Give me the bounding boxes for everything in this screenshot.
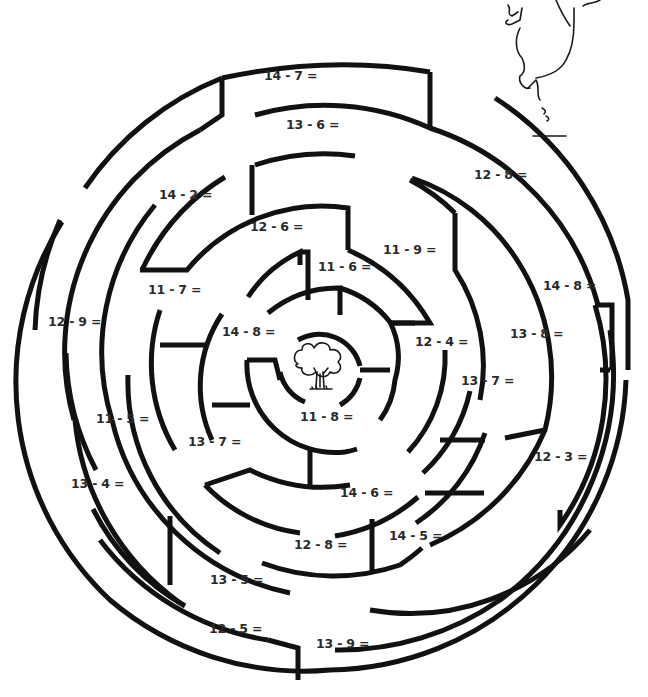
maze-walls <box>16 65 628 680</box>
problem-text: 12 - 3 = <box>534 449 587 464</box>
problem-text: 12 - 6 = <box>250 219 303 234</box>
problem-12-9[interactable]: 12 - 9 = <box>48 314 121 329</box>
problem-11-9[interactable]: 11 - 9 = <box>383 242 456 257</box>
problem-12-6[interactable]: 12 - 6 = <box>250 219 323 234</box>
problem-14-6[interactable]: 14 - 6 = <box>340 485 413 500</box>
problem-12-5[interactable]: 12 - 5 = <box>209 621 282 636</box>
problem-text: 11 - 9 = <box>383 242 436 257</box>
problem-13-6[interactable]: 13 - 6 = <box>286 117 359 132</box>
problem-12-4[interactable]: 12 - 4 = <box>415 334 488 349</box>
problem-text: 14 - 2 = <box>159 187 212 202</box>
problem-text: 14 - 8 = <box>543 278 596 293</box>
problem-13-7-left[interactable]: 13 - 7 = <box>188 434 261 449</box>
problem-text: 13 - 8 = <box>510 326 563 341</box>
problem-text: 12 - 8 = <box>294 537 347 552</box>
problem-14-7[interactable]: 14 - 7 = <box>264 68 337 83</box>
problem-text: 11 - 7 = <box>148 282 201 297</box>
problem-13-4[interactable]: 13 - 4 = <box>71 476 144 491</box>
problem-11-5[interactable]: 11 - 5 = <box>96 411 169 426</box>
problem-text: 14 - 7 = <box>264 68 317 83</box>
problem-text: 11 - 5 = <box>96 411 149 426</box>
problem-12-8-top[interactable]: 12 - 8 = <box>474 167 547 182</box>
problem-text: 13 - 7 = <box>188 434 241 449</box>
problem-13-8[interactable]: 13 - 8 = <box>510 326 583 341</box>
problem-11-6[interactable]: 11 - 6 = <box>318 259 391 274</box>
problem-text: 14 - 6 = <box>340 485 393 500</box>
problem-11-7[interactable]: 11 - 7 = <box>148 282 221 297</box>
problem-14-8-right[interactable]: 14 - 8 = <box>543 278 616 293</box>
problem-14-2[interactable]: 14 - 2 = <box>159 187 232 202</box>
problem-text: 11 - 8 = <box>300 409 353 424</box>
problem-text: 11 - 6 = <box>318 259 371 274</box>
problem-13-9[interactable]: 13 - 9 = <box>316 636 389 651</box>
problem-text: 12 - 5 = <box>209 621 262 636</box>
circular-maze <box>0 0 648 697</box>
problem-14-5[interactable]: 14 - 5 = <box>389 528 462 543</box>
tree-icon <box>295 343 341 389</box>
problem-text: 12 - 4 = <box>415 334 468 349</box>
problem-text: 13 - 9 = <box>316 636 369 651</box>
problem-text: 13 - 5 = <box>210 572 263 587</box>
problem-text: 14 - 5 = <box>389 528 442 543</box>
problem-text: 14 - 8 = <box>222 324 275 339</box>
problem-text: 13 - 4 = <box>71 476 124 491</box>
problem-text: 12 - 8 = <box>474 167 527 182</box>
problem-13-7-right[interactable]: 13 - 7 = <box>461 373 534 388</box>
problem-12-8-bottom[interactable]: 12 - 8 = <box>294 537 367 552</box>
problem-11-8[interactable]: 11 - 8 = <box>300 409 373 424</box>
problem-text: 12 - 9 = <box>48 314 101 329</box>
problem-14-8-center[interactable]: 14 - 8 = <box>222 324 295 339</box>
ring2-left <box>65 130 200 420</box>
problem-12-3[interactable]: 12 - 3 = <box>534 449 607 464</box>
problem-text: 13 - 6 = <box>286 117 339 132</box>
problem-13-5[interactable]: 13 - 5 = <box>210 572 283 587</box>
problem-text: 13 - 7 = <box>461 373 514 388</box>
